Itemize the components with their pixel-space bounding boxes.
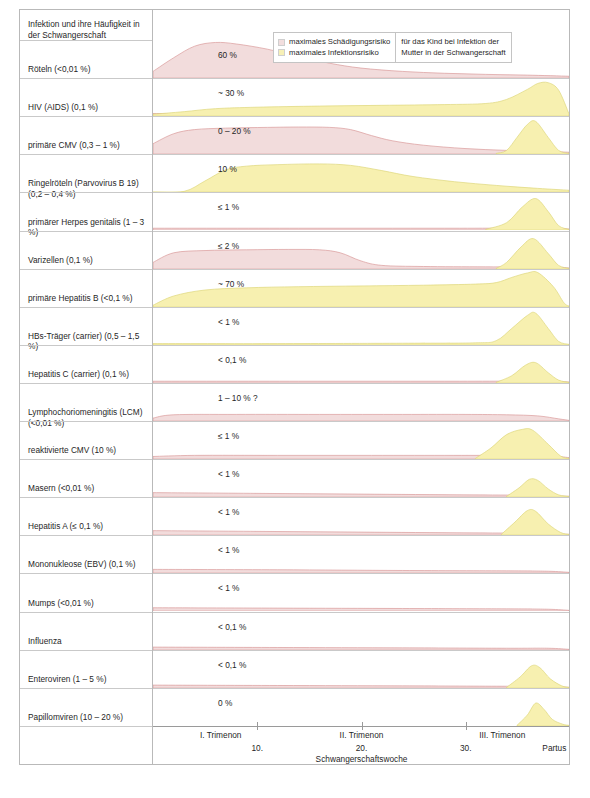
risk-curve-row	[153, 270, 569, 307]
row-separator	[20, 612, 152, 613]
axis-x-title: Schwangerschaftswoche	[292, 754, 432, 764]
row-separator	[20, 650, 152, 651]
row-label-infection: Mumps (<0,01 %)	[28, 598, 147, 609]
infection-risk-area	[475, 429, 569, 460]
row-separator	[20, 192, 152, 193]
row-label-infection: primäre Hepatitis B (<0,1 %)	[28, 293, 147, 304]
risk-value-label: < 0,1 %	[218, 355, 246, 365]
infection-risk-area	[507, 665, 569, 688]
row-separator	[20, 688, 152, 689]
row-label-infection: Mononukleose (EBV) (0,1 %)	[28, 559, 147, 570]
risk-curve-row	[153, 79, 569, 116]
risk-curve-row	[153, 384, 569, 421]
risk-curve-row	[153, 536, 569, 573]
axis-trimester-label: I. Trimenon	[181, 730, 261, 740]
risk-value-label: < 1 %	[218, 545, 239, 555]
row-separator	[20, 383, 152, 384]
row-separator	[20, 345, 152, 346]
risk-value-label: 0 %	[218, 698, 232, 708]
axis-partus-label: Partus	[524, 743, 584, 753]
axis-tick	[362, 722, 363, 730]
row-separator	[20, 497, 152, 498]
legend-label-damage: maximales Schädigungsrisiko	[289, 37, 390, 48]
axis-trimester-label: II. Trimenon	[322, 730, 402, 740]
risk-curve-row	[153, 689, 569, 726]
risk-value-label: ~ 30 %	[218, 88, 244, 98]
row-label-infection: Lymphochoriomeningitis (LCM) (<0,01 %)	[28, 407, 147, 428]
x-axis: 10.20.30.I. TrimenonII. TrimenonIII. Tri…	[153, 726, 569, 764]
risk-curve-row	[153, 498, 569, 535]
axis-week-label: 30.	[452, 743, 480, 753]
legend-items: maximales Schädigungsrisiko maximales In…	[274, 33, 395, 62]
row-label-infection: HIV (AIDS) (0,1 %)	[28, 102, 147, 113]
row-separator	[20, 269, 152, 270]
risk-value-label: 0 – 20 %	[218, 126, 251, 136]
row-label-infection: Röteln (<0,01 %)	[28, 64, 147, 75]
risk-value-label: < 1 %	[218, 469, 239, 479]
risk-curve-row	[153, 346, 569, 383]
risk-value-label: < 1 %	[218, 317, 239, 327]
legend-note-line2: Mutter in der Schwangerschaft	[401, 48, 505, 59]
infection-risk-area	[153, 82, 569, 116]
risk-value-label: ~ 70 %	[218, 279, 244, 289]
infection-risk-area	[496, 362, 569, 383]
chart-title: Infektion und ihre Häufigkeit in der Sch…	[28, 19, 147, 40]
axis-tick	[257, 722, 258, 730]
risk-curve-row	[153, 651, 569, 688]
row-separator	[20, 154, 152, 155]
risk-value-label: < 0,1 %	[218, 622, 246, 632]
risk-value-label: ≤ 1 %	[218, 202, 239, 212]
infection-risk-area	[153, 164, 569, 192]
legend-item-infection: maximales Infektionsrisiko	[278, 48, 390, 59]
legend-note: für das Kind bei Infektion der Mutter in…	[395, 33, 510, 62]
risk-curve-row	[153, 613, 569, 650]
risk-value-label: < 1 %	[218, 583, 239, 593]
legend-note-line1: für das Kind bei Infektion der	[401, 37, 505, 48]
infection-risk-area	[517, 703, 569, 726]
infection-risk-chart: Infektion und ihre Häufigkeit in der Sch…	[19, 9, 570, 765]
risk-curve-row	[153, 155, 569, 192]
row-label-infection: Enteroviren (1 – 5 %)	[28, 674, 147, 685]
row-label-infection: HBs-Träger (carrier) (0,5 – 1,5 %)	[28, 331, 147, 352]
infection-risk-area	[496, 121, 569, 154]
row-separator	[20, 307, 152, 308]
damage-risk-area	[153, 608, 569, 611]
damage-risk-area	[153, 647, 569, 650]
damage-risk-area	[153, 570, 569, 574]
axis-week-label: 10.	[243, 743, 271, 753]
row-separator	[20, 78, 152, 79]
row-label-infection: Masern (<0,01 %)	[28, 483, 147, 494]
label-column: Infektion und ihre Häufigkeit in der Sch…	[20, 10, 153, 764]
legend-label-infection: maximales Infektionsrisiko	[289, 48, 379, 59]
risk-value-label: ≤ 2 %	[218, 241, 239, 251]
row-label-infection: reaktivierte CMV (10 %)	[28, 445, 147, 456]
risk-curve-row	[153, 117, 569, 154]
risk-value-label: 1 – 10 % ?	[218, 393, 258, 403]
risk-curve-row	[153, 193, 569, 230]
row-separator	[20, 116, 152, 117]
risk-value-label: < 1 %	[218, 507, 239, 517]
plot-column: 60 %~ 30 %0 – 20 %10 %≤ 1 %≤ 2 %~ 70 %< …	[153, 10, 569, 764]
risk-value-label: < 0,1 %	[218, 660, 246, 670]
risk-curve-row	[153, 232, 569, 269]
damage-swatch-icon	[278, 39, 285, 46]
row-label-infection: primäre CMV (0,3 – 1 %)	[28, 140, 147, 151]
row-separator	[20, 459, 152, 460]
row-separator	[20, 535, 152, 536]
risk-value-label: 60 %	[218, 50, 237, 60]
axis-tick	[466, 722, 467, 730]
infection-swatch-icon	[278, 49, 285, 56]
row-separator	[20, 421, 152, 422]
infection-risk-area	[486, 199, 569, 231]
axis-trimester-label: III. Trimenon	[462, 730, 542, 740]
infection-risk-area	[153, 312, 569, 345]
risk-value-label: ≤ 1 %	[218, 431, 239, 441]
row-separator	[20, 573, 152, 574]
row-separator	[20, 726, 152, 727]
row-label-infection: primärer Herpes genitalis (1 – 3 %)	[28, 217, 147, 238]
damage-risk-area	[153, 414, 569, 421]
header-separator	[20, 40, 152, 41]
risk-curve-row	[153, 308, 569, 345]
row-separator	[20, 231, 152, 232]
row-label-infection: Papillomviren (10 – 20 %)	[28, 712, 147, 723]
